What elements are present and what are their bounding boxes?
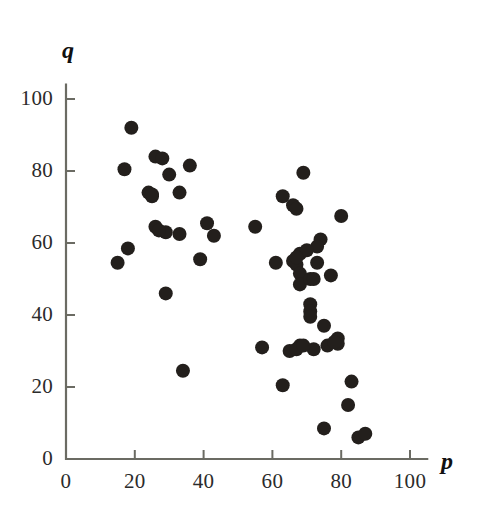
data-point: [307, 272, 321, 286]
scatter-plot-figure: 020406080100 020406080100 q p: [0, 0, 483, 519]
data-point: [162, 168, 176, 182]
x-axis-ticks: [135, 450, 410, 459]
y-axis-ticks: [66, 99, 75, 387]
data-point: [341, 398, 355, 412]
data-point: [303, 310, 317, 324]
y-tick-label: 80: [31, 158, 53, 182]
axis-lines: [66, 85, 427, 459]
x-tick-label: 80: [330, 469, 352, 493]
x-axis-tick-labels: 020406080100: [61, 469, 427, 493]
x-tick-label: 60: [262, 469, 284, 493]
x-tick-label: 100: [394, 469, 426, 493]
data-point: [269, 256, 283, 270]
y-tick-label: 0: [42, 446, 53, 470]
y-tick-label: 40: [31, 302, 53, 326]
data-point: [183, 159, 197, 173]
y-axis-tick-labels: 020406080100: [21, 86, 53, 470]
data-point: [324, 268, 338, 282]
data-point: [173, 186, 187, 200]
data-point: [200, 216, 214, 230]
x-tick-label: 0: [61, 469, 72, 493]
data-point: [276, 378, 290, 392]
x-axis-label: p: [439, 448, 453, 474]
data-point: [334, 209, 348, 223]
data-point: [117, 162, 131, 176]
data-point: [255, 340, 269, 354]
data-point: [176, 364, 190, 378]
data-point: [145, 187, 159, 201]
data-point: [289, 202, 303, 216]
data-point: [248, 220, 262, 234]
data-point: [317, 421, 331, 435]
data-point: [289, 250, 303, 264]
data-point: [296, 166, 310, 180]
y-tick-label: 20: [31, 374, 53, 398]
data-points-group: [111, 121, 373, 445]
data-point: [345, 375, 359, 389]
data-point: [173, 227, 187, 241]
data-point: [111, 256, 125, 270]
data-point: [296, 339, 310, 353]
data-point: [327, 335, 341, 349]
data-point: [152, 223, 166, 237]
data-point: [193, 252, 207, 266]
data-point: [358, 427, 372, 441]
y-tick-label: 60: [31, 230, 53, 254]
data-point: [310, 256, 324, 270]
data-point: [207, 229, 221, 243]
data-point: [155, 151, 169, 165]
y-axis-label: q: [62, 37, 74, 63]
x-tick-label: 20: [124, 469, 146, 493]
y-tick-label: 100: [21, 86, 53, 110]
plot-canvas: 020406080100 020406080100 q p: [0, 0, 483, 519]
data-point: [159, 286, 173, 300]
data-point: [317, 319, 331, 333]
data-point: [121, 241, 135, 255]
data-point: [124, 121, 138, 135]
x-tick-label: 40: [193, 469, 215, 493]
